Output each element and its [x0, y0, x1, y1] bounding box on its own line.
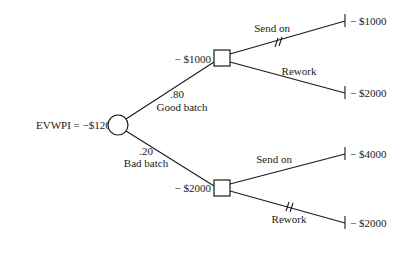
- bad-rework-payoff: − $2000: [350, 217, 387, 229]
- bad-rework-label: Rework: [272, 213, 307, 225]
- decision-node-bad-square: [214, 180, 230, 196]
- bad-send-on-label: Send on: [256, 153, 292, 165]
- decision-tree-diagram: EVWPI = −$1200 .80 Good batch .20 Bad ba…: [0, 0, 404, 255]
- pruned-branch-marker-icon: [275, 37, 282, 47]
- root-expected-value-label: EVWPI = −$1200: [36, 119, 117, 131]
- chance-node-circle: [108, 115, 128, 135]
- decision-node-good-value: − $1000: [175, 53, 212, 65]
- good-batch-label: Good batch: [156, 101, 208, 113]
- good-rework-payoff: − $2000: [350, 87, 387, 99]
- good-send-on-label: Send on: [254, 22, 290, 34]
- good-rework-label: Rework: [282, 65, 317, 77]
- decision-node-good-square: [214, 50, 230, 66]
- good-batch-probability: .80: [170, 88, 184, 100]
- bad-send-on-payoff: − $4000: [350, 148, 387, 160]
- bad-batch-probability: .20: [139, 145, 153, 157]
- good-send-on-payoff: − $1000: [350, 15, 387, 27]
- bad-batch-label: Bad batch: [124, 157, 169, 169]
- decision-node-bad-value: − $2000: [175, 182, 212, 194]
